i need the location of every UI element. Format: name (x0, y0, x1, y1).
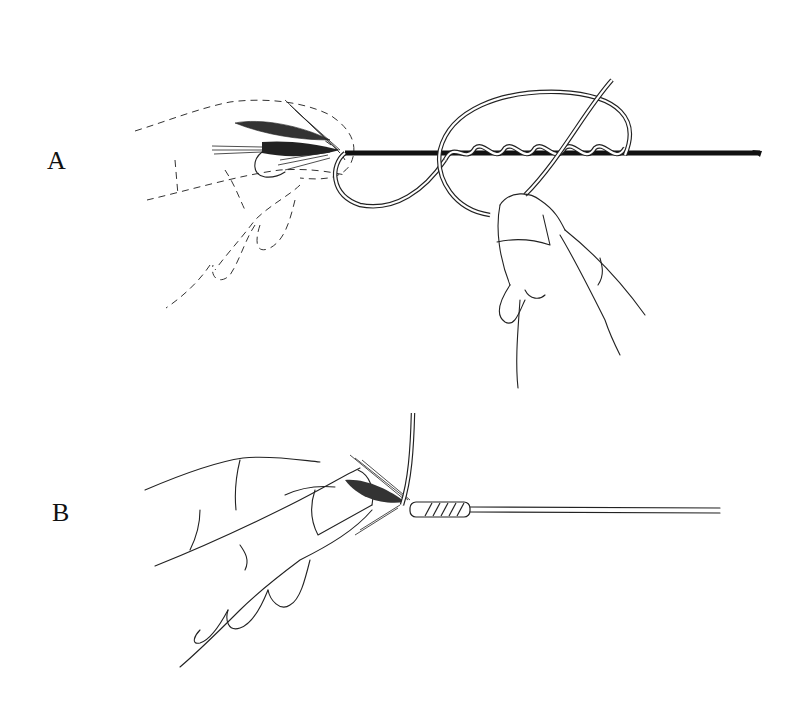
fly-b (345, 455, 410, 535)
fly-a (212, 100, 340, 177)
ghost-hand-dashed (135, 100, 354, 308)
knot-illustration (0, 0, 792, 713)
step-a-drawing (135, 80, 762, 388)
hand-a (497, 194, 645, 388)
main-line-b (470, 507, 720, 508)
hand-b (145, 457, 373, 667)
step-b-drawing (145, 413, 720, 667)
